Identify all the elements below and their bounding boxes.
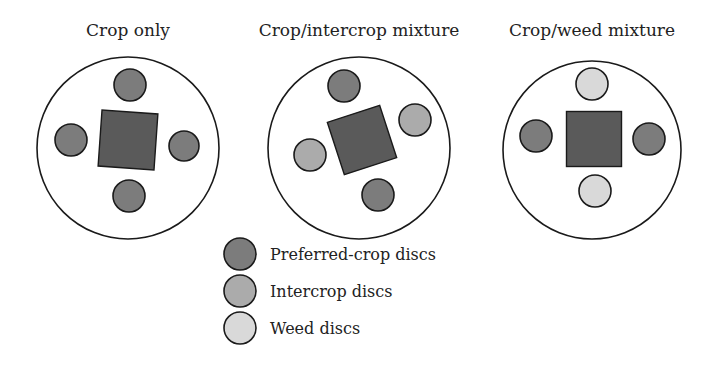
legend-item-preferred-crop: Preferred-crop discs [224, 238, 436, 270]
disc-arrangement-diagram: Crop onlyCrop/intercrop mixtureCrop/weed… [0, 0, 707, 370]
panel-title: Crop/weed mixture [509, 20, 675, 40]
preferred-crop-disc [328, 70, 360, 102]
preferred-crop-disc [169, 131, 199, 161]
panel-crop-only: Crop only [37, 20, 219, 239]
legend-item-weed: Weed discs [224, 312, 360, 344]
preferred-crop-disc [362, 179, 394, 211]
preferred-crop-disc [55, 124, 87, 156]
intercrop-disc [399, 104, 431, 136]
panel-crop-weed-mixture: Crop/weed mixture [503, 20, 681, 239]
legend-swatch-icon [224, 312, 256, 344]
legend-swatch-icon [224, 238, 256, 270]
legend-swatch-icon [224, 275, 256, 307]
weed-disc [579, 175, 611, 207]
legend-label: Weed discs [270, 319, 360, 338]
intercrop-disc [294, 139, 326, 171]
preferred-crop-disc [633, 123, 665, 155]
panels: Crop onlyCrop/intercrop mixtureCrop/weed… [37, 20, 681, 239]
preferred-crop-disc [520, 120, 552, 152]
legend-label: Intercrop discs [270, 282, 392, 301]
panel-title: Crop/intercrop mixture [259, 20, 460, 40]
legend-item-intercrop: Intercrop discs [224, 275, 392, 307]
preferred-crop-disc [113, 180, 145, 212]
panel-title: Crop only [86, 20, 170, 40]
panel-crop-intercrop-mixture: Crop/intercrop mixture [259, 20, 460, 239]
center-square [98, 110, 158, 170]
preferred-crop-disc [114, 69, 146, 101]
legend: Preferred-crop discsIntercrop discsWeed … [224, 238, 436, 344]
center-square [567, 112, 622, 167]
weed-disc [576, 68, 608, 100]
legend-label: Preferred-crop discs [270, 245, 436, 264]
